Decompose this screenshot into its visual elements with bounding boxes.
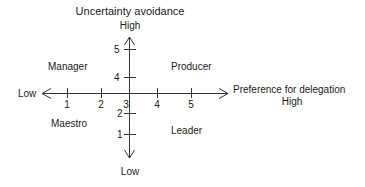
- y-axis-title: Uncertainty avoidance: [76, 6, 185, 17]
- quadrant-diagram: Uncertainty avoidance High Low 5 4 2 1 L…: [0, 0, 365, 187]
- quadrant-label-leader: Leader: [171, 125, 202, 136]
- x-tick-label-5: 5: [188, 99, 194, 110]
- x-tick-label-2: 2: [98, 99, 104, 110]
- quadrant-label-manager: Manager: [48, 61, 87, 72]
- x-tick-label-1: 1: [64, 99, 70, 110]
- y-tick-label-2: 2: [117, 108, 123, 119]
- y-tick-label-5: 5: [114, 44, 120, 55]
- x-axis-title: Preference for delegation: [233, 84, 345, 95]
- x-axis-low-label: Low: [18, 88, 36, 99]
- x-tick-label-4: 4: [154, 99, 160, 110]
- x-axis-high-label: High: [282, 96, 303, 107]
- y-tick-label-4: 4: [114, 72, 120, 83]
- y-axis-low-label: Low: [121, 166, 139, 177]
- y-axis-high-label: High: [120, 20, 141, 31]
- x-tick-label-3: 3: [123, 99, 129, 110]
- y-tick-label-1: 1: [117, 129, 123, 140]
- quadrant-label-maestro: Maestro: [51, 118, 87, 129]
- quadrant-label-producer: Producer: [171, 61, 212, 72]
